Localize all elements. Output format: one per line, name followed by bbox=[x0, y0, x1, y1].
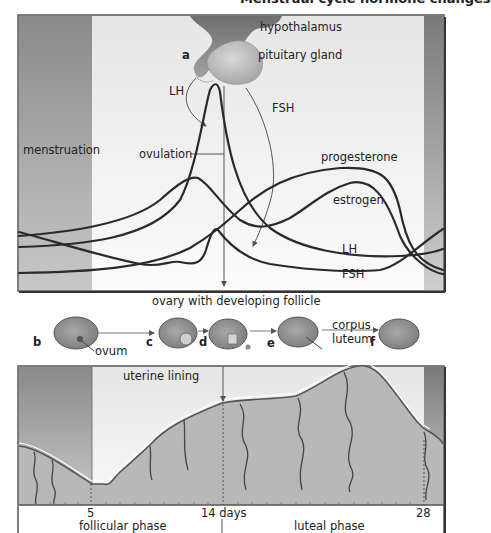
stage-letter-d: d bbox=[199, 337, 207, 349]
corpus-luteum-label-2: luteum bbox=[332, 334, 373, 346]
stage-letter-c: c bbox=[146, 337, 153, 349]
lh-curve-label: LH bbox=[342, 244, 357, 256]
stage-letter-e: e bbox=[267, 338, 275, 350]
follicular-phase-label: follicular phase bbox=[79, 521, 167, 533]
panel-letter-a: a bbox=[182, 50, 190, 62]
tick-day14: 14 days bbox=[201, 508, 246, 520]
estrogen-label: estrogen bbox=[333, 195, 384, 207]
ovary-f bbox=[379, 319, 419, 349]
ovary-b bbox=[54, 317, 98, 349]
tick-day28: 28 bbox=[416, 508, 431, 520]
fsh-arrow-label: FSH bbox=[272, 103, 294, 115]
ovulation-label: ovulation bbox=[139, 149, 192, 161]
progesterone-label: progesterone bbox=[321, 152, 398, 164]
corpus-luteum-label-1: corpus bbox=[332, 320, 371, 332]
pituitary-label: pituitary gland bbox=[258, 50, 342, 62]
stage-letter-f: f bbox=[370, 337, 375, 349]
ovum-label: ovum bbox=[95, 346, 127, 358]
ovary-e bbox=[278, 317, 318, 347]
luteal-phase-label: luteal phase bbox=[294, 521, 365, 533]
hypothalamus-label: hypothalamus bbox=[260, 22, 342, 34]
lh-arrow-label: LH bbox=[169, 86, 184, 98]
tick-day5: 5 bbox=[87, 508, 94, 520]
uterine-lining-label: uterine lining bbox=[123, 371, 199, 383]
stage-letter-b: b bbox=[33, 337, 41, 349]
menstruation-label: menstruation bbox=[23, 145, 100, 157]
ovary-row-title: ovary with developing follicle bbox=[152, 296, 321, 308]
fsh-curve-label: FSH bbox=[342, 269, 364, 281]
ovary-c bbox=[159, 318, 197, 348]
